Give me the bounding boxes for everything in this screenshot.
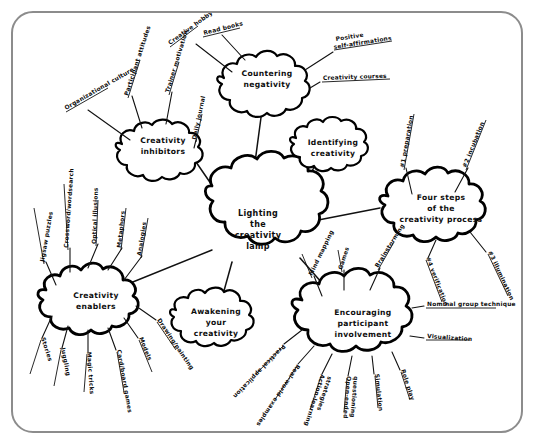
branch-label-models: Models: [138, 336, 153, 362]
node-encouraging-participant-involvement[interactable]: Encouraging participant involvement: [231, 223, 515, 428]
branch-label-participant-attitudes: Participant attitudes: [123, 25, 152, 97]
branch-label-step2: #2 incubation: [461, 121, 485, 169]
branch-label-optical-illusions: Optical illusions: [91, 187, 100, 244]
twig-creativity-courses: [310, 82, 320, 88]
twig-step4: [428, 240, 436, 258]
twig-nominal-group: [412, 306, 424, 308]
twig-trainer-motivation: [166, 92, 172, 124]
branch-label-magic-tricks: Magic tricks: [85, 352, 95, 395]
inhibitors-label-line2: inhibitors: [141, 147, 186, 156]
twig-action-learning: [322, 354, 332, 374]
twig-open-ended: [348, 356, 352, 376]
twig-creative-hobby: [196, 44, 232, 72]
twig-stories: [42, 316, 52, 338]
branch-label-mind-mapping: Mind mapping: [308, 229, 336, 277]
twig-role-play: [392, 352, 400, 370]
twig-step3: [470, 232, 486, 252]
awakening-label-line2: your: [206, 318, 227, 327]
branch-label-analogies: Analogies: [136, 221, 148, 256]
twig-models: [124, 318, 138, 338]
node-awakening-your-creativity[interactable]: Awakening your creativity: [170, 288, 254, 347]
encouraging-label-line3: involvement: [335, 330, 392, 339]
encouraging-label-line2: participant: [337, 319, 388, 328]
countering-label-line2: negativity: [244, 80, 291, 89]
branch-label-crossword: Crossword/wordsearch: [63, 168, 75, 248]
branch-label-juggling: Juggling: [59, 346, 72, 377]
underline-juggling: [54, 350, 61, 386]
twig-drawing: [136, 306, 156, 320]
twig-simulation: [372, 356, 374, 374]
node-identifying-creativity[interactable]: Identifying creativity: [290, 117, 368, 171]
twig-analogies: [124, 256, 142, 280]
identifying-label-line1: Identifying: [308, 138, 359, 147]
node-creativity-inhibitors[interactable]: Creativity inhibitors Organizational cul…: [64, 25, 208, 181]
twig-visualization: [410, 336, 424, 338]
branch-label-brainstorming: Brainstorming: [374, 223, 406, 269]
four-steps-label-line1: Four steps: [417, 193, 466, 202]
branch-label-metaphors: Metaphors: [116, 210, 127, 248]
twig-practical-application: [284, 330, 302, 344]
enablers-label-line2: enablers: [76, 302, 116, 311]
awakening-label-line1: Awakening: [191, 307, 241, 316]
branch-label-nominal-group-technique: Nominal group technique: [427, 301, 516, 308]
center-label-line4: lamp: [246, 242, 270, 251]
branch-label-step3: #3 illumination: [487, 250, 515, 301]
center-label-line1: Lighting: [238, 209, 278, 218]
identifying-label-line2: creativity: [311, 149, 355, 158]
branch-label-step1: #1 preparation: [399, 115, 415, 169]
node-creativity-enablers[interactable]: Creativity enablers: [30, 168, 195, 414]
four-steps-label-line2: of the: [427, 204, 454, 213]
twig-participant-attitudes: [132, 96, 142, 128]
branch-label-role-play: Role play: [399, 368, 416, 401]
underline-stories: [30, 340, 41, 374]
countering-label-line1: Countering: [241, 69, 292, 78]
twig-read-books: [222, 35, 245, 60]
twig-positive-affirmations: [305, 52, 333, 70]
awakening-label-line3: creativity: [194, 329, 238, 338]
twig-organizational-culture: [88, 110, 130, 140]
branch-label-card-board-games: Card/board games: [115, 349, 133, 414]
branch-label-stories: Stories: [40, 336, 54, 362]
branch-label-visualization: Visualization: [427, 333, 473, 342]
center-label-line3: creativity: [235, 231, 282, 240]
encouraging-label-line1: Encouraging: [334, 308, 391, 317]
branch-label-simulation: Simulation: [374, 373, 384, 411]
enablers-label-line1: Creativity: [73, 291, 118, 300]
center-label-line2: the: [250, 220, 266, 229]
twig-card-games: [108, 328, 116, 350]
inhibitors-label-line1: Creativity: [140, 136, 185, 145]
branch-label-step4: #4 verification: [425, 256, 449, 307]
diagram-canvas: Lighting the creativity lamp Countering …: [0, 0, 535, 445]
four-steps-label-line3: creativity process: [400, 215, 483, 224]
branch-label-daily-journal: Daily journal: [191, 95, 207, 140]
mind-map-svg: Lighting the creativity lamp Countering …: [0, 0, 535, 445]
branch-label-jigsaw-puzzles: Jigsaw puzzles: [39, 211, 55, 264]
twig-real-world: [298, 346, 314, 364]
node-four-steps-of-the-creativity-process[interactable]: Four steps of the creativity process #1 …: [380, 114, 516, 307]
